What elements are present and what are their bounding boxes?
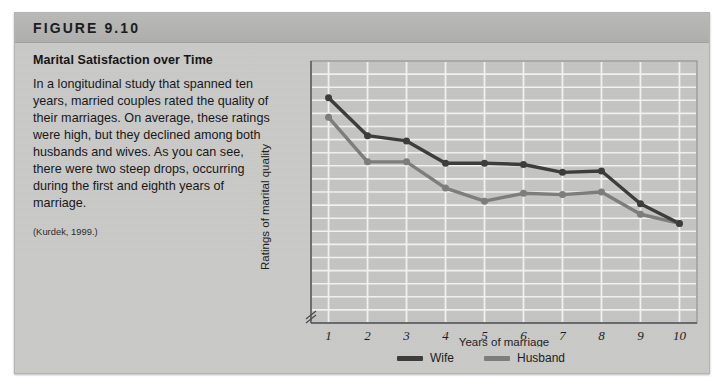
x-tick-label: 4: [442, 328, 449, 343]
data-point-wife: [559, 169, 566, 176]
line-chart: Ratings of marital quality 12345678910 Y…: [255, 47, 707, 347]
figure-citation: (Kurdek, 1999.): [33, 226, 276, 237]
data-point-husband: [637, 211, 644, 218]
data-point-husband: [481, 198, 488, 205]
data-point-husband: [520, 190, 527, 197]
figure-text-column: Marital Satisfaction over Time In a long…: [33, 53, 276, 237]
figure-title: Marital Satisfaction over Time: [33, 53, 276, 67]
x-tick-label: 1: [325, 328, 332, 343]
legend-swatch-wife: [397, 356, 423, 361]
figure-body-text: In a longitudinal study that spanned ten…: [33, 76, 276, 212]
x-tick-label: 2: [364, 328, 371, 343]
x-tick-label: 7: [559, 328, 566, 343]
legend-swatch-husband: [484, 356, 510, 361]
x-tick-label: 3: [402, 328, 410, 343]
data-point-wife: [481, 160, 488, 167]
legend-item-husband[interactable]: Husband: [484, 351, 565, 365]
x-tick-label: 10: [673, 328, 687, 343]
legend-label: Husband: [517, 351, 565, 365]
x-tick-label: 9: [637, 328, 644, 343]
data-point-husband: [598, 189, 605, 196]
figure-number-label: FIGURE 9.10: [33, 20, 140, 36]
data-point-husband: [403, 158, 410, 165]
data-point-wife: [520, 161, 527, 168]
chart-container: Ratings of marital quality 12345678910 Y…: [255, 47, 707, 369]
data-point-husband: [364, 158, 371, 165]
data-point-wife: [325, 94, 332, 101]
data-point-wife: [676, 220, 683, 227]
data-point-husband: [325, 114, 332, 121]
legend-item-wife[interactable]: Wife: [397, 351, 454, 365]
data-point-wife: [403, 137, 410, 144]
figure-header-band: FIGURE 9.10: [15, 13, 709, 43]
data-point-wife: [598, 168, 605, 175]
data-point-wife: [637, 200, 644, 207]
legend-label: Wife: [430, 351, 454, 365]
x-tick-label: 8: [598, 328, 605, 343]
data-point-wife: [364, 132, 371, 139]
chart-legend: WifeHusband: [255, 351, 707, 365]
y-axis-title: Ratings of marital quality: [259, 144, 271, 270]
data-point-wife: [442, 160, 449, 167]
data-point-husband: [559, 191, 566, 198]
x-axis-title: Years of marriage: [459, 336, 549, 347]
data-point-husband: [442, 185, 449, 192]
figure-container: FIGURE 9.10 Marital Satisfaction over Ti…: [14, 12, 710, 374]
